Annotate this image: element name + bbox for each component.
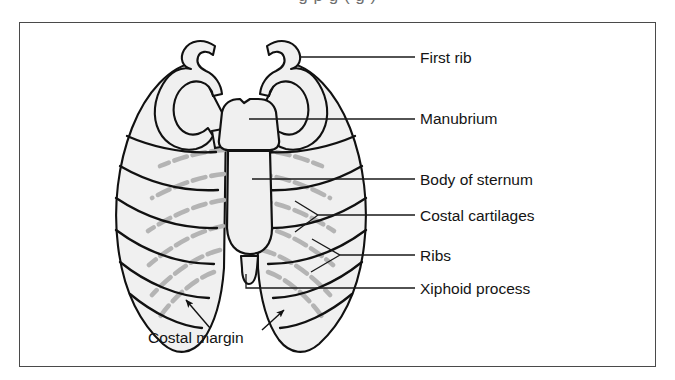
label-manubrium: Manubrium (420, 111, 498, 127)
label-costal-cartilages: Costal cartilages (420, 208, 535, 224)
label-costal-margin: Costal margin (148, 330, 244, 346)
label-first-rib: First rib (420, 50, 472, 66)
manubrium-shape (219, 99, 279, 150)
label-body-of-sternum: Body of sternum (420, 172, 533, 188)
body-of-sternum-shape (227, 151, 272, 254)
label-xiphoid-process: Xiphoid process (420, 281, 530, 297)
thoracic-cage-diagram (0, 0, 675, 380)
xiphoid-process-shape (241, 256, 258, 284)
label-ribs: Ribs (420, 248, 451, 264)
figure-page: g p g ( g ) (0, 0, 675, 380)
